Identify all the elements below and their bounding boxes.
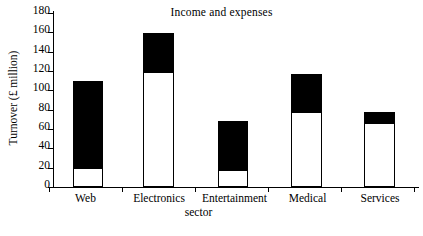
y-tick-label: 180	[33, 5, 50, 17]
y-axis-title: Turnover (£ million)	[7, 18, 19, 178]
bar-segment-upper	[144, 34, 173, 73]
x-label-medical: Medical	[269, 192, 346, 204]
bar-services	[364, 112, 395, 187]
y-tick-label: 40	[39, 140, 51, 152]
y-axis-line	[53, 11, 54, 187]
x-axis-title: sector	[0, 206, 423, 218]
bar-medical	[291, 74, 322, 187]
y-tick-label: 120	[33, 63, 50, 75]
y-tick-label: 160	[33, 24, 50, 36]
y-tick-label: 60	[39, 121, 51, 133]
y-tick-label: 100	[33, 82, 50, 94]
bar-entertainment	[218, 121, 248, 187]
x-label-services: Services	[341, 192, 419, 204]
chart-figure: Income and expenses Turnover (£ million)…	[0, 0, 423, 236]
y-tick-label: 140	[33, 44, 50, 56]
plot-area: 0 20 40 60 80 100 120 140	[53, 13, 419, 187]
bar-web	[73, 81, 103, 187]
y-tick-label: 20	[39, 160, 51, 172]
x-axis-line	[49, 187, 419, 188]
bar-electronics	[143, 33, 174, 187]
y-tick-label: 80	[39, 102, 51, 114]
x-axis-title-text: sector	[185, 206, 212, 218]
bar-segment-upper	[219, 122, 247, 170]
bar-segment-upper	[365, 113, 394, 125]
bar-segment-upper	[292, 75, 321, 113]
x-label-web: Web	[48, 192, 123, 204]
bar-segment-upper	[74, 82, 102, 169]
